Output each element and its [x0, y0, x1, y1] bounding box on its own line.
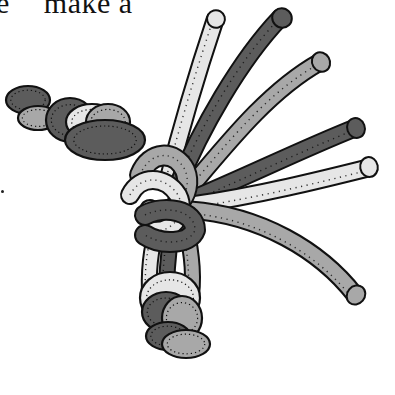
left-coils: [6, 86, 145, 160]
knot-illustration: [0, 0, 395, 395]
coil-mid-lowest: [162, 330, 210, 358]
coil-dark-3: [65, 120, 145, 160]
cord-mid-long: [187, 210, 369, 308]
